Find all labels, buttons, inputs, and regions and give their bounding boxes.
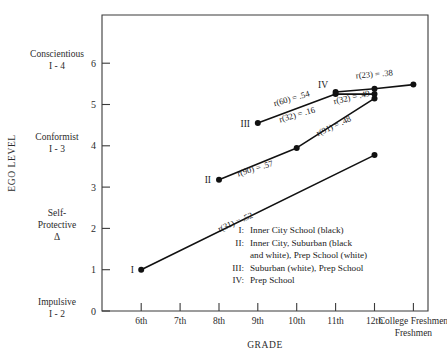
series-IV-label: IV	[318, 80, 328, 90]
series-II-label: II	[205, 175, 211, 185]
y-tick-label: 6	[91, 58, 96, 69]
band-label-conformist: Conformist	[35, 132, 79, 142]
legend-key-III: III:	[232, 263, 244, 273]
y-tick-label: 3	[91, 182, 96, 193]
band-label-impulsive-code: I - 2	[49, 309, 65, 319]
x-tick-label: 7th	[174, 316, 186, 326]
legend-key-II: II:	[235, 238, 244, 248]
x-tick-label: 11th	[327, 316, 344, 326]
legend-key-I: I:	[238, 225, 244, 235]
x-tick-label: 9th	[252, 316, 264, 326]
band-label-self-protective-2: Protective	[38, 220, 77, 230]
series-I-correlation: r(31) = .52	[216, 210, 254, 234]
series-III-label: III	[241, 119, 251, 129]
ego-level-band-labels: Conscientious I - 4 Conformist I - 3 Sel…	[30, 49, 84, 319]
series-IV-point	[333, 89, 339, 95]
legend-text-I: Inner City School (black)	[250, 225, 344, 235]
series-III-point	[372, 91, 378, 97]
legend-text-III: Suburban (white), Prep School	[250, 263, 364, 273]
series-II-correlation-1: r(90) = .57	[236, 158, 275, 179]
y-tick-label: 1	[91, 264, 96, 275]
legend-key-IV: IV:	[232, 275, 244, 285]
series-I-label: I	[131, 265, 134, 275]
ego-level-by-grade-figure: 0 1 2 3 4 5 6 Conscientious I - 4 Confor…	[0, 0, 447, 356]
series-II-point	[294, 145, 300, 151]
band-label-conscientious: Conscientious	[30, 49, 84, 59]
band-label-impulsive: Impulsive	[38, 297, 76, 307]
band-label-self-protective-delta: Δ	[54, 232, 60, 242]
series-I-point	[372, 152, 378, 158]
x-tick-label: 6th	[135, 316, 147, 326]
x-axis-tick-labels: 6th 7th 8th 9th 10th 11th 12th College F…	[135, 316, 447, 338]
series-I-point	[138, 267, 144, 273]
y-tick-label: 0	[91, 306, 96, 317]
series-IV-point	[372, 86, 378, 92]
x-tick-label-college-line2: Freshmen	[395, 328, 433, 338]
series-II-point	[216, 177, 222, 183]
x-axis-title: GRADE	[247, 340, 283, 350]
y-tick-label: 5	[91, 99, 96, 110]
legend: I: Inner City School (black) II: Inner C…	[232, 225, 367, 285]
legend-text-II-line2: and white), Prep School (white)	[250, 250, 367, 260]
chart-canvas: 0 1 2 3 4 5 6 Conscientious I - 4 Confor…	[0, 0, 447, 356]
x-tick-label: 10th	[288, 316, 305, 326]
series-IV-correlation: r(23) = .38	[355, 67, 393, 80]
y-axis-tick-labels: 0 1 2 3 4 5 6	[91, 58, 96, 317]
series-III-correlation-2: r(32) = .16	[278, 104, 317, 124]
band-label-conscientious-code: I - 4	[49, 61, 65, 71]
y-tick-label: 2	[91, 223, 96, 234]
legend-text-IV: Prep School	[250, 275, 295, 285]
x-tick-label-college: College Freshmen	[379, 316, 447, 326]
y-axis-ticks	[102, 63, 110, 311]
series-IV-point	[410, 82, 416, 88]
y-tick-label: 4	[91, 140, 96, 151]
series-III-point	[255, 120, 261, 126]
y-axis-title: EGO LEVEL	[7, 134, 17, 191]
x-tick-label: 8th	[213, 316, 225, 326]
band-label-self-protective-1: Self-	[48, 208, 66, 218]
series-III: III r(60) = .54 r(32) = .16 r(32) = .49	[241, 88, 378, 128]
series-II-correlation-2: r(91) = .48	[315, 113, 353, 138]
x-axis-ticks	[141, 303, 413, 311]
series-II: II r(90) = .57 r(91) = .48	[205, 95, 378, 185]
band-label-conformist-code: I - 3	[49, 144, 65, 154]
legend-text-II-line1: Inner City, Suburban (black	[250, 238, 352, 248]
